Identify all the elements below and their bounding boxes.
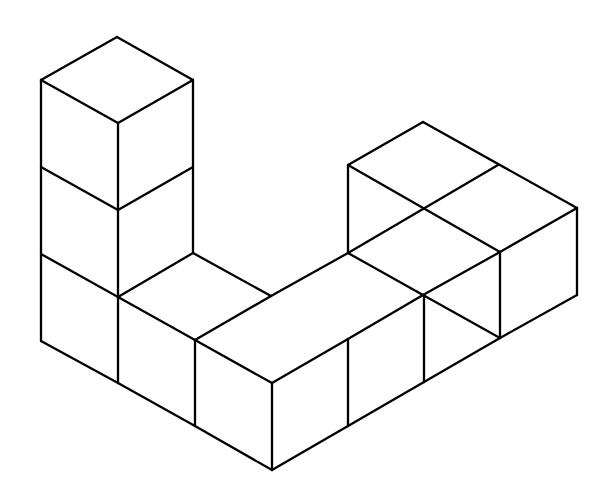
cube-edge (423, 295, 500, 338)
cube-edge (423, 165, 498, 209)
cube-edge (195, 426, 272, 470)
cube-edge (41, 341, 118, 383)
cube-edge (348, 382, 424, 426)
cube-edge (118, 383, 195, 426)
cube-edge (348, 122, 423, 165)
cube-edge (272, 426, 348, 470)
cube-edge (117, 37, 193, 80)
cube-edge (41, 37, 117, 80)
cube-diagram (0, 0, 610, 494)
isometric-cubes-drawing (0, 0, 610, 494)
cube-edge (41, 80, 118, 123)
cube-edge (41, 254, 118, 297)
cube-edge (118, 297, 195, 340)
cube-edge (271, 253, 348, 296)
cube-edge (118, 167, 193, 210)
cube-edge (348, 295, 423, 339)
cube-edge (423, 252, 500, 295)
cube-edge (500, 295, 577, 338)
cube-edge (424, 338, 500, 382)
cube-edge (195, 296, 271, 340)
cube-edge (118, 253, 193, 297)
cube-edge (195, 340, 272, 383)
cube-edge (272, 339, 348, 383)
cube-edge (193, 253, 271, 296)
cube-edge (41, 167, 118, 210)
cube-edge (348, 209, 423, 253)
cube-edge (500, 208, 577, 252)
cube-edge (348, 253, 423, 295)
cube-edge (118, 80, 193, 123)
